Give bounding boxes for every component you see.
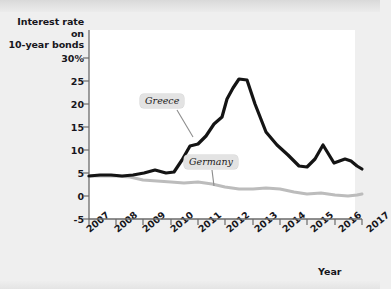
- y-axis-ticks: [83, 58, 89, 219]
- series-label-germany: Germany: [184, 155, 238, 169]
- leader-line-greece: [177, 110, 193, 137]
- series-label-greece: Greece: [140, 94, 184, 108]
- series-line-germany: [89, 176, 362, 196]
- x-axis-ticks: [89, 219, 362, 225]
